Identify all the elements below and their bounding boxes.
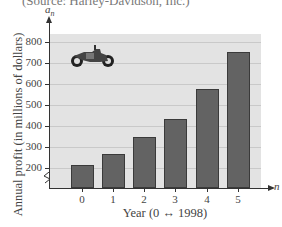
x-tick [82, 188, 83, 192]
y-axis-symbol: an [45, 3, 55, 18]
y-tick [45, 63, 50, 64]
bar-4 [196, 89, 219, 188]
motorcycle-icon [70, 45, 116, 69]
y-tick [45, 147, 50, 148]
x-tick [175, 188, 176, 192]
x-tick [238, 188, 239, 192]
y-tick [45, 168, 50, 169]
x-tick-label: 5 [231, 193, 245, 205]
x-tick [144, 188, 145, 192]
bar-5 [227, 52, 250, 188]
y-tick [45, 126, 50, 127]
x-tick-label: 4 [200, 193, 214, 205]
y-tick [45, 42, 50, 43]
bar-2 [133, 137, 156, 188]
y-tick [45, 105, 50, 106]
x-tick-label: 0 [75, 193, 89, 205]
x-axis-title: Year (0 ↔ 1998) [100, 206, 230, 221]
x-tick-label: 3 [168, 193, 182, 205]
y-tick [45, 84, 50, 85]
x-axis-symbol: n [274, 180, 280, 192]
axis-break-icon [41, 172, 53, 184]
x-tick [113, 188, 114, 192]
x-tick [207, 188, 208, 192]
gridline [50, 42, 261, 43]
bar-1 [102, 154, 125, 188]
bar-0 [71, 165, 94, 188]
y-axis-title: Annual profit (in millions of dollars) [11, 25, 26, 225]
bar-3 [164, 119, 187, 188]
x-tick-label: 2 [137, 193, 151, 205]
x-tick-label: 1 [106, 193, 120, 205]
